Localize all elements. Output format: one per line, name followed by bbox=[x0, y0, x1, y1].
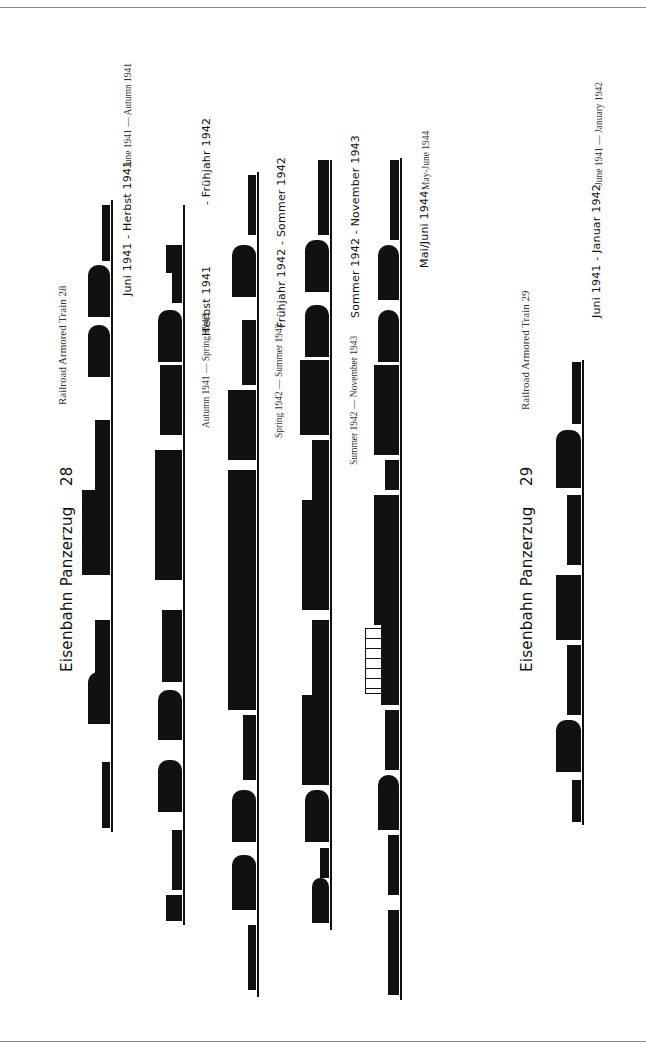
config3-period-de: Frühjahr 1942 - Sommer 1942 bbox=[275, 157, 288, 328]
config5-period-en: May-June 1944 bbox=[421, 131, 431, 190]
train28-title: Eisenbahn Panzerzug 28 bbox=[58, 466, 76, 672]
config4-period-en: Summer 1942 — November 1943 bbox=[349, 336, 359, 465]
train28-number: 28 bbox=[58, 466, 76, 486]
train29-period-de: Juni 1941 - Januar 1942 bbox=[590, 184, 603, 318]
train29-number: 29 bbox=[518, 466, 536, 486]
train28-title-text: Eisenbahn Panzerzug bbox=[58, 506, 76, 672]
train29-title-text: Eisenbahn Panzerzug bbox=[518, 506, 536, 672]
config1-period-de: Juni 1941 - Herbst 1941 bbox=[121, 161, 134, 296]
config5-period-de: Mai/Juni 1944 bbox=[418, 191, 431, 268]
train29-title: Eisenbahn Panzerzug 29 bbox=[518, 466, 536, 672]
bottom-rule bbox=[0, 1041, 646, 1042]
config4-period-de: Sommer 1942 - November 1943 bbox=[349, 135, 362, 318]
train29-subtitle: Railroad Armored Train 29 bbox=[519, 291, 531, 410]
train28-subtitle: Railroad Armored Train 28 bbox=[56, 286, 68, 405]
train29-period-en: June 1941 — January 1942 bbox=[594, 82, 604, 186]
config1-period-en: June 1941 — Autumn 1941 bbox=[123, 63, 133, 168]
config3-period-en: Spring 1942 — Summer 1942 bbox=[274, 323, 284, 438]
top-rule bbox=[0, 7, 646, 8]
config2-period-de-end: - Frühjahr 1942 bbox=[200, 118, 213, 205]
config2-period-en: Autumn 1941 — Spring 1942 bbox=[201, 315, 211, 428]
